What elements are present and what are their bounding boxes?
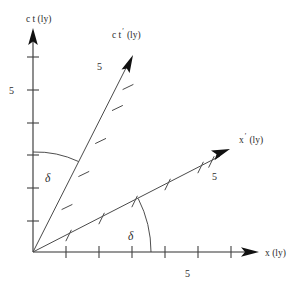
ct-prime-tick <box>112 105 123 110</box>
ct-prime-axis-line <box>33 66 127 252</box>
x-prime-label-main: x <box>239 135 244 145</box>
ct-prime-axis-group <box>33 55 133 252</box>
ct-prime-axis-tick-value: 5 <box>97 61 102 72</box>
ct-prime-label-main: c t <box>112 30 122 40</box>
ct-prime-axis-arrowhead <box>122 55 134 73</box>
delta-label-x: δ <box>128 230 134 242</box>
x-axis-tick-value: 5 <box>185 268 190 279</box>
ct-prime-tick <box>123 84 134 89</box>
x-prime-label-primemark: ′ <box>245 132 247 141</box>
ct-axis-group <box>27 28 39 252</box>
x-axis-group <box>33 246 259 258</box>
x-prime-label-unit: (ly) <box>249 135 263 146</box>
x-prime-tick <box>66 230 72 241</box>
x-prime-tick <box>99 213 105 224</box>
ct-axis-label: c t (ly) <box>26 14 51 25</box>
ct-axis-tick-value: 5 <box>9 85 14 96</box>
x-prime-tick-group <box>66 156 214 241</box>
ct-prime-axis-label: c t′(ly) <box>112 27 141 42</box>
ct-prime-tick <box>95 138 106 143</box>
x-prime-tick <box>132 196 138 207</box>
delta-label-ct: δ <box>45 172 51 184</box>
delta-arc-ct <box>33 152 79 162</box>
svg-text:x′(ly): x′(ly) <box>239 132 263 147</box>
svg-text:c t′(ly): c t′(ly) <box>112 27 141 42</box>
minkowski-diagram: c t (ly) c t′(ly) x′(ly) x (ly) 5 5 5 5 … <box>0 0 302 286</box>
spacetime-diagram-canvas: c t (ly) c t′(ly) x′(ly) x (ly) 5 5 5 5 … <box>0 0 302 286</box>
x-axis-label: x (ly) <box>265 248 286 259</box>
x-prime-tick <box>165 179 171 190</box>
ct-prime-label-unit: (ly) <box>127 30 141 41</box>
x-prime-axis-arrowhead <box>211 149 230 160</box>
ct-prime-tick <box>78 171 89 176</box>
ct-prime-label-primemark: ′ <box>122 27 124 36</box>
x-prime-axis-label: x′(ly) <box>239 132 263 147</box>
ct-prime-tick-group <box>62 84 134 209</box>
ct-prime-tick <box>62 204 73 209</box>
x-prime-axis-line <box>33 156 220 252</box>
delta-arc-x <box>138 199 151 253</box>
x-prime-axis-tick-value: 5 <box>212 171 217 182</box>
